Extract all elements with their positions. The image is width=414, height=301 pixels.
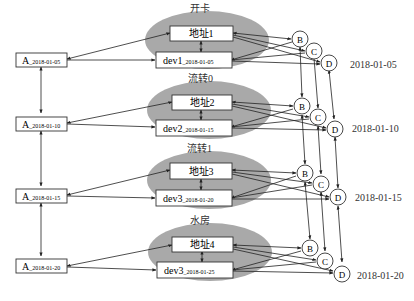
address-node-1: 地址1: [170, 26, 233, 41]
b-node-4: B: [302, 240, 318, 256]
date-label-3: 2018-01-15: [355, 192, 402, 203]
svg-text:B: B: [302, 169, 308, 179]
a-node-4: A_2018-01-20: [16, 259, 67, 273]
svg-text:地址4: 地址4: [190, 238, 215, 250]
svg-text:D: D: [339, 270, 346, 280]
group-label-3: 流转1: [187, 142, 212, 154]
group-label-1: 开卡: [190, 2, 210, 14]
dev-node-2: dev2_2018-01-15: [156, 120, 232, 136]
dev-node-4: dev3_2018-01-25: [157, 262, 233, 278]
svg-text:D: D: [335, 193, 342, 203]
svg-text:地址2: 地址2: [190, 96, 215, 108]
a-node-3: A_2018-01-15: [16, 189, 67, 203]
date-label-1: 2018-01-05: [350, 59, 397, 70]
svg-text:B: B: [299, 102, 305, 112]
group-label-2: 流转0: [188, 72, 213, 84]
a-node-2: A_2018-01-10: [16, 117, 67, 131]
address-node-4: 地址4: [172, 237, 233, 252]
c-node-1: C: [306, 43, 322, 59]
address-node-3: 地址3: [170, 163, 232, 179]
svg-text:D: D: [332, 125, 339, 135]
dev-node-3: dev3_2018-01-20: [156, 190, 232, 206]
c-node-4: C: [317, 253, 333, 269]
d-node-1: D: [321, 55, 337, 71]
b-node-1: B: [292, 31, 308, 47]
diagram-canvas: A_2018-01-05 A_2018-01-10 A_2018-01-15 A…: [0, 0, 414, 301]
svg-text:C: C: [318, 180, 324, 190]
address-node-2: 地址2: [172, 95, 232, 110]
b-node-3: B: [297, 165, 313, 181]
svg-text:地址1: 地址1: [189, 27, 214, 39]
svg-text:B: B: [307, 244, 313, 254]
svg-text:B: B: [297, 35, 303, 45]
svg-text:D: D: [326, 59, 333, 69]
c-node-3: C: [313, 176, 329, 192]
d-node-2: D: [327, 121, 343, 137]
c-node-2: C: [310, 109, 326, 125]
svg-text:C: C: [311, 47, 317, 57]
d-node-3: D: [330, 189, 346, 205]
date-label-4: 2018-01-20: [357, 270, 404, 281]
group-label-4: 水房: [190, 214, 210, 226]
svg-text:C: C: [322, 257, 328, 267]
d-node-4: D: [334, 266, 350, 282]
a-node-1: A_2018-01-05: [16, 53, 67, 67]
date-label-2: 2018-01-10: [352, 123, 399, 134]
svg-text:地址3: 地址3: [189, 165, 214, 177]
dev-node-1: dev1_2018-01-05: [156, 52, 232, 68]
b-node-2: B: [294, 98, 310, 114]
svg-text:C: C: [315, 113, 321, 123]
